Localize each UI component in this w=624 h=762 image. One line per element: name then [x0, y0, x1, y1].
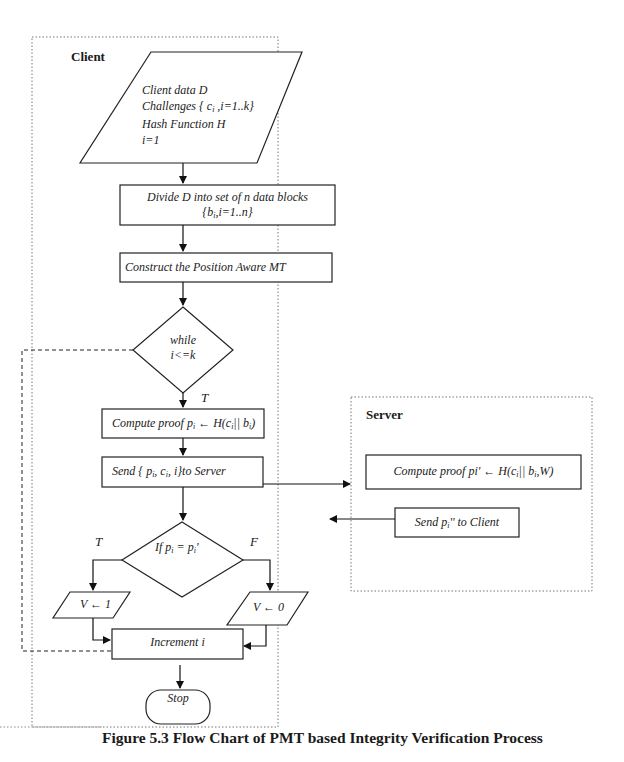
stop-text: Stop [146, 691, 210, 706]
flowchart-canvas [0, 0, 624, 762]
if-text: If pi = pi' [155, 540, 199, 558]
client-compute-text: Compute proof pi ← H(ci|| bi) [112, 416, 255, 434]
figure-caption: Figure 5.3 Flow Chart of PMT based Integ… [102, 729, 543, 747]
divide-line-2: {bi,i=1..n} [120, 205, 335, 223]
if-diamond [122, 522, 243, 597]
increment-text: Increment i [112, 635, 243, 650]
server-compute-text: Compute proof pi' ← H(ci|| bi,W) [366, 464, 581, 482]
v-true-text: V ← 1 [80, 597, 111, 612]
if-true-label: T [95, 534, 102, 550]
input-line-2: Challenges { ci ,i=1..k} [142, 99, 254, 118]
while-true-label: T [201, 390, 208, 406]
input-block-text: Client data D Challenges { ci ,i=1..k} H… [142, 83, 254, 148]
input-line-1: Client data D [142, 83, 254, 99]
while-text: while i<=k [153, 333, 213, 363]
server-title: Server [366, 407, 403, 423]
input-line-4: i=1 [142, 133, 254, 149]
client-title: Client [71, 49, 105, 65]
construct-block-text: Construct the Position Aware MT [125, 260, 286, 275]
if-false-label: F [250, 534, 258, 550]
send-block-text: Send { pi, ci, i}to Server [112, 464, 226, 482]
v-false-text: V ← 0 [253, 600, 284, 615]
server-send-text: Send pi'' to Client [395, 515, 519, 533]
divide-block-text: Divide D into set of n data blocks {bi,i… [120, 190, 335, 223]
server-container [351, 397, 592, 591]
input-line-3: Hash Function H [142, 117, 254, 133]
divide-line-1: Divide D into set of n data blocks [120, 190, 335, 205]
